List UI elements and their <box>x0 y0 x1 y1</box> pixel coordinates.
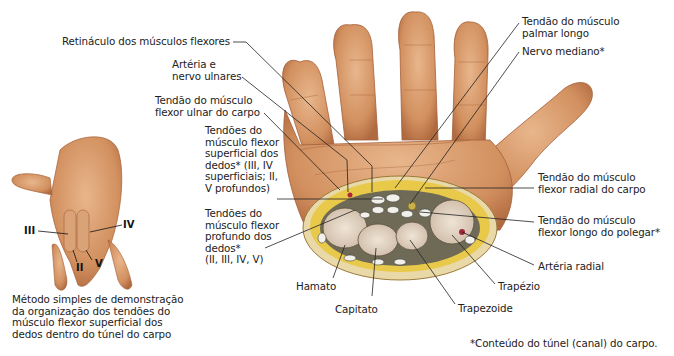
finger-label-iv: IV <box>123 219 134 230</box>
label-capitato: Capitato <box>335 304 378 316</box>
inset-caption: Método simples de demonstração da organi… <box>12 294 183 340</box>
label-flexor-superficial: Tendões do músculo flexor superficial do… <box>205 125 279 195</box>
label-hamato: Hamato <box>296 281 336 293</box>
label-flexor-radial-carpo: Tendão do músculo flexor radial do carpo <box>538 172 646 195</box>
label-arteria-nervo-ulnares: Artéria e nervo ulnares <box>172 59 241 82</box>
footnote: *Conteúdo do túnel (canal) do carpo. <box>470 338 657 350</box>
finger-label-ii: II <box>76 262 83 273</box>
label-flexor-profundo: Tendões do músculo flexor profundo dos d… <box>205 208 279 266</box>
label-flexor-ulnar-carpo: Tendão do músculo flexor ulnar do carpo <box>155 95 260 118</box>
finger-label-v: V <box>95 258 103 269</box>
label-flexor-longo-polegar: Tendão do músculo flexor longo do polega… <box>538 215 660 238</box>
label-trapezio: Trapézio <box>498 281 540 293</box>
inset-hand <box>12 137 132 290</box>
label-nervo-mediano: Nervo mediano* <box>522 46 605 58</box>
finger-label-iii: III <box>24 225 35 236</box>
label-palmar-longo: Tendão do músculo palmar longo <box>522 16 620 39</box>
label-arteria-radial: Artéria radial <box>538 261 604 273</box>
carpal-tunnel-cross-section <box>303 176 497 280</box>
label-trapezoide: Trapezoide <box>458 303 513 315</box>
label-retinaculo: Retináculo dos músculos flexores <box>30 36 230 48</box>
